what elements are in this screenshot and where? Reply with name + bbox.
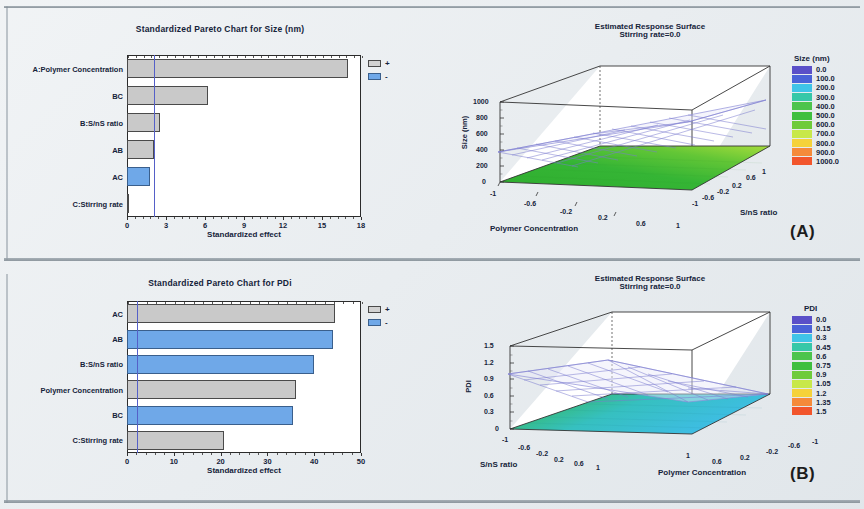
surface-z-tick-label: 400	[476, 146, 488, 153]
surface-y-tick-label: -0.6	[518, 444, 530, 451]
color-legend-row: 0.15	[792, 324, 862, 333]
surface-x-tick-label: -0.6	[524, 200, 536, 207]
x-tick-major	[361, 217, 362, 220]
pareto-category-label: C:Stirring rate	[73, 436, 123, 445]
panel-b-tag: (B)	[790, 464, 815, 484]
color-legend-row: 900.0	[792, 148, 862, 157]
color-legend-value: 400.0	[816, 102, 835, 111]
surface-x-tick-label: -0.2	[766, 448, 778, 455]
panel-b: Standardized Pareto Chart for PDi ACABB:…	[0, 268, 864, 509]
color-legend-row: 1000.0	[792, 157, 862, 166]
x-tick-major	[127, 217, 128, 220]
surface-z-tick-label: 200	[476, 162, 488, 169]
x-tick-minor	[342, 453, 343, 455]
color-legend-value: 0.3	[816, 333, 826, 342]
x-tick-minor	[228, 217, 229, 219]
x-tick-minor	[291, 217, 292, 219]
pareto-category-label: Polymer Concentration	[40, 385, 123, 394]
color-legend-swatch	[792, 157, 812, 165]
pareto-pdi-title: Standardized Pareto Chart for PDi	[10, 278, 430, 288]
x-tick-minor	[174, 217, 175, 219]
color-legend-row: 300.0	[792, 93, 862, 102]
x-tick-major	[322, 217, 323, 220]
legend-sign-label: -	[385, 74, 388, 80]
x-tick-label: 3	[164, 221, 168, 230]
surface-pdi-legend-title: PDI	[792, 304, 862, 313]
surface-y-tick-label: 0.2	[732, 182, 742, 189]
color-legend-row: 0.75	[792, 361, 862, 370]
color-legend-swatch	[792, 84, 812, 92]
surface-pdi-y-title: S/nS ratio	[480, 460, 517, 469]
pareto-category-label: C:Stirring rate	[73, 199, 123, 208]
pareto-bar	[127, 86, 208, 105]
x-tick-minor	[260, 217, 261, 219]
pareto-pdi-bars	[127, 301, 361, 453]
surface-z-tick-label: 0.9	[484, 375, 494, 382]
surface-y-tick-label: 0.6	[746, 174, 756, 181]
pareto-category-label: AC	[112, 172, 123, 181]
x-tick-label: 30	[263, 457, 271, 466]
x-tick-major	[361, 453, 362, 456]
surface-x-tick-label: 0.2	[740, 454, 750, 461]
pareto-size-category-labels: A:Polymer ConcentrationBCB:S/nS ratioABA…	[10, 55, 123, 217]
color-legend-value: 800.0	[816, 139, 835, 148]
figure-root: Standardized Pareto Chart for Size (nm) …	[0, 0, 864, 509]
x-tick-major	[205, 217, 206, 220]
x-tick-minor	[324, 453, 325, 455]
color-legend-swatch	[792, 139, 812, 147]
color-legend-swatch	[792, 112, 812, 120]
color-legend-value: 500.0	[816, 111, 835, 120]
x-tick-minor	[277, 453, 278, 455]
color-legend-swatch	[792, 380, 812, 388]
panel-a-tag: (A)	[790, 222, 815, 242]
x-tick-label: 15	[318, 221, 326, 230]
x-tick-minor	[275, 217, 276, 219]
x-tick-minor	[221, 217, 222, 219]
color-legend-row: 0.3	[792, 333, 862, 342]
surface-size-legend-rows: 0.0100.0200.0300.0400.0500.0600.0700.080…	[792, 65, 862, 166]
surface-y-tick-label: -0.2	[536, 450, 548, 457]
surface-y-tick-label: 0.6	[574, 460, 584, 467]
color-legend-value: 1.35	[816, 398, 831, 407]
x-tick-minor	[143, 217, 144, 219]
color-legend-swatch	[792, 130, 812, 138]
color-legend-row: 600.0	[792, 120, 862, 129]
pareto-category-label: AB	[112, 145, 123, 154]
color-legend-row: 1.35	[792, 398, 862, 407]
pareto-pdi-x-title: Standardized effect	[127, 466, 361, 475]
x-tick-minor	[295, 453, 296, 455]
x-tick-label: 0	[125, 221, 129, 230]
surface-x-tick-label: 1	[686, 452, 690, 459]
surface-z-tick-label: 0.3	[484, 408, 494, 415]
x-tick-minor	[330, 217, 331, 219]
pareto-category-label: B:S/nS ratio	[80, 360, 123, 369]
pareto-legend-row: -	[368, 319, 388, 326]
color-legend-swatch	[792, 407, 812, 415]
surface-pdi-color-legend: PDI 0.00.150.30.450.60.750.91.051.21.351…	[792, 304, 862, 416]
x-tick-major	[283, 217, 284, 220]
surface-pdi-legend-rows: 0.00.150.30.450.60.750.91.051.21.351.5	[792, 315, 862, 416]
x-tick-minor	[213, 217, 214, 219]
x-tick-minor	[230, 453, 231, 455]
surface-y-tick-label: -0.6	[702, 194, 714, 201]
color-legend-row: 800.0	[792, 139, 862, 148]
pareto-bar	[127, 194, 129, 213]
pareto-chart-pdi: Standardized Pareto Chart for PDi ACABB:…	[10, 278, 430, 493]
pareto-legend-row: -	[368, 73, 388, 80]
color-legend-value: 0.0	[816, 65, 826, 74]
color-legend-row: 1.05	[792, 379, 862, 388]
surface-size-x-title: Polymer Concentration	[490, 224, 578, 233]
color-legend-row: 100.0	[792, 74, 862, 83]
x-tick-minor	[182, 217, 183, 219]
pareto-bar	[127, 380, 296, 399]
color-legend-swatch	[792, 75, 812, 83]
pareto-category-label: BC	[112, 411, 123, 420]
panel-a-top-rule	[4, 6, 860, 8]
color-legend-swatch	[792, 325, 812, 333]
x-tick-minor	[305, 453, 306, 455]
legend-swatch-positive	[368, 306, 381, 313]
color-legend-value: 0.6	[816, 352, 826, 361]
x-tick-label: 20	[216, 457, 224, 466]
surface-x-tick-label: -0.6	[788, 442, 800, 449]
pareto-bar	[127, 431, 224, 450]
